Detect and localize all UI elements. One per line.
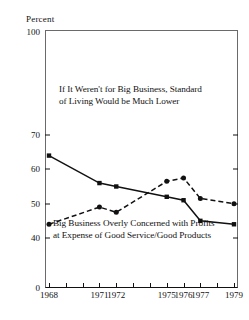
series-marker-1 <box>164 179 169 184</box>
y-axis-tick-label: 100 <box>27 28 41 37</box>
plot-area: 405060701000 196819711972197519761977197… <box>45 30 238 288</box>
x-axis-tick-label: 1979 <box>225 291 243 300</box>
x-axis-tick-label: 1977 <box>191 291 209 300</box>
series-marker-0 <box>47 153 51 157</box>
x-axis-tick-label: 1971 <box>90 291 108 300</box>
series-line-0 <box>49 156 234 225</box>
y-axis-tick-label: 40 <box>31 234 40 243</box>
y-axis-tick-label: 50 <box>31 199 40 208</box>
series-marker-1 <box>198 196 203 201</box>
series-marker-0 <box>181 198 185 202</box>
annotation-overly-concerned-profits-line2: at Expense of Good Service/Good Products <box>53 230 214 242</box>
series-marker-1 <box>97 205 102 210</box>
y-axis-tick-label: 60 <box>31 165 40 174</box>
x-axis-tick-label: 1968 <box>40 291 58 300</box>
series-marker-0 <box>165 195 169 199</box>
series-marker-1 <box>181 175 186 180</box>
series-marker-0 <box>97 181 101 185</box>
y-axis-title: Percent <box>26 14 54 24</box>
x-axis-tick-label: 1975 <box>158 291 176 300</box>
series-marker-1 <box>114 210 119 215</box>
annotation-overly-concerned-profits-line1: Big Business Overly Concerned with Profi… <box>53 218 214 230</box>
series-layer <box>45 30 238 288</box>
annotation-standard-of-living-line2: of Living Would be Much Lower <box>59 96 202 108</box>
y-axis-tick-label: 70 <box>31 131 40 140</box>
annotation-standard-of-living-line1: If It Weren't for Big Business, Standard <box>59 84 202 96</box>
series-marker-0 <box>114 184 118 188</box>
annotation-overly-concerned-profits: Big Business Overly Concerned with Profi… <box>53 218 214 241</box>
series-marker-1 <box>232 201 237 206</box>
x-axis-tick-label: 1972 <box>107 291 125 300</box>
x-axis-tick-label: 1976 <box>175 291 193 300</box>
chart-page: Percent 405060701000 1968197119721975197… <box>0 0 249 320</box>
series-marker-1 <box>47 222 52 227</box>
annotation-standard-of-living: If It Weren't for Big Business, Standard… <box>59 84 202 107</box>
series-marker-0 <box>232 222 236 226</box>
